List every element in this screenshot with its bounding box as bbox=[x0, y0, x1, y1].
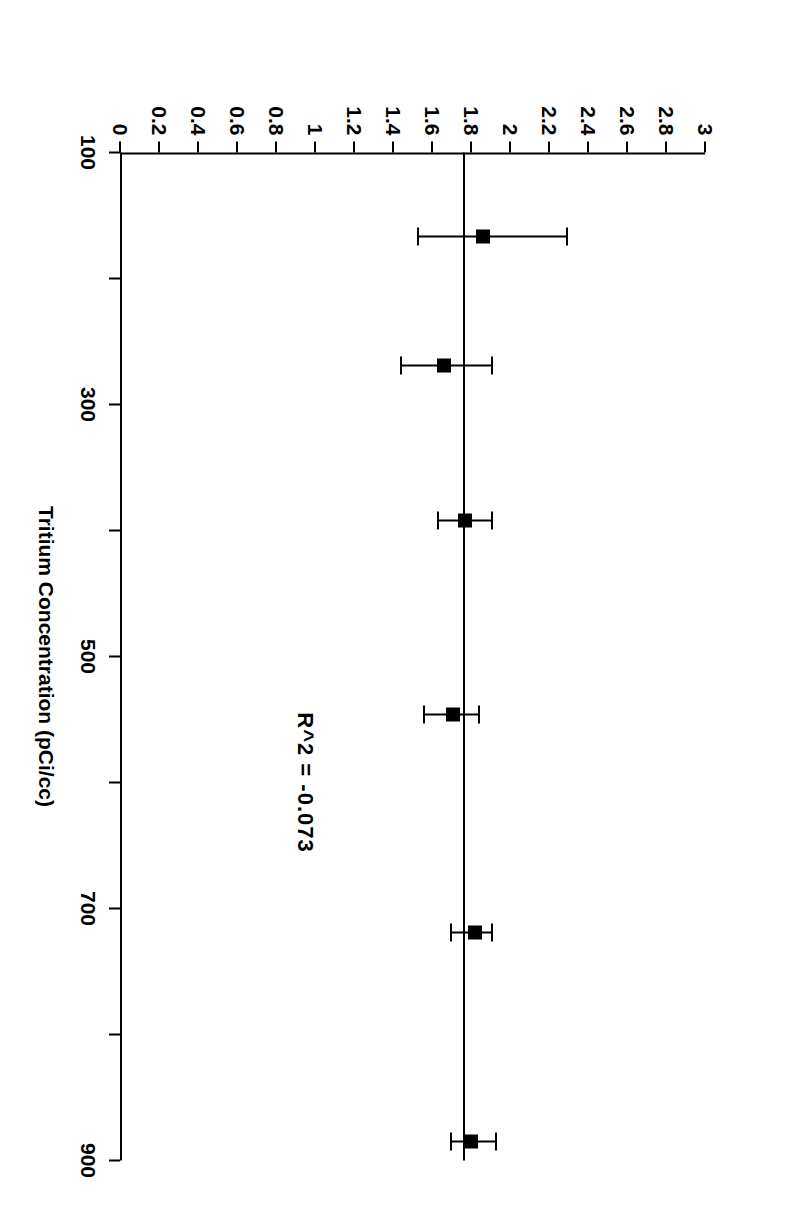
x-tick-900 bbox=[109, 1159, 120, 1161]
y-tick-3 bbox=[704, 141, 706, 152]
y-tick-label-2.4: 2.4 bbox=[576, 47, 600, 135]
y-tick-label-0.8: 0.8 bbox=[264, 47, 288, 135]
y-tick-label-2: 2 bbox=[498, 47, 522, 135]
error-bar-cap bbox=[491, 923, 493, 941]
figure-root: 100300500700900 00.20.40.60.811.21.41.61… bbox=[0, 0, 810, 1209]
y-tick-2.2 bbox=[548, 141, 550, 152]
data-point-marker bbox=[464, 1134, 478, 1148]
y-tick-label-1.4: 1.4 bbox=[381, 47, 405, 135]
data-point-marker bbox=[446, 707, 460, 721]
x-tick-400 bbox=[109, 529, 120, 531]
y-tick-label-0.6: 0.6 bbox=[225, 47, 249, 135]
x-tick-200 bbox=[109, 277, 120, 279]
x-tick-label-300: 300 bbox=[76, 386, 100, 421]
data-point-marker bbox=[437, 358, 451, 372]
x-tick-700 bbox=[109, 907, 120, 909]
error-bar-cap bbox=[423, 705, 425, 723]
error-bar-cap bbox=[566, 227, 568, 245]
y-tick-0 bbox=[119, 141, 121, 152]
x-tick-label-100: 100 bbox=[76, 134, 100, 169]
error-bar-cap bbox=[417, 227, 419, 245]
error-bar-cap bbox=[451, 923, 453, 941]
y-tick-2 bbox=[509, 141, 511, 152]
y-tick-label-2.8: 2.8 bbox=[654, 47, 678, 135]
data-point-marker bbox=[476, 229, 490, 243]
x-tick-label-700: 700 bbox=[76, 890, 100, 925]
y-tick-1.6 bbox=[431, 141, 433, 152]
y-tick-1.4 bbox=[392, 141, 394, 152]
y-tick-1 bbox=[314, 141, 316, 152]
error-bar-cap bbox=[491, 511, 493, 529]
y-tick-1.8 bbox=[470, 141, 472, 152]
y-tick-label-0: 0 bbox=[108, 47, 132, 135]
x-tick-800 bbox=[109, 1033, 120, 1035]
y-tick-0.4 bbox=[197, 141, 199, 152]
error-bar-cap bbox=[437, 511, 439, 529]
y-tick-label-0.4: 0.4 bbox=[186, 47, 210, 135]
y-tick-2.4 bbox=[587, 141, 589, 152]
y-tick-2.6 bbox=[626, 141, 628, 152]
y-tick-0.6 bbox=[236, 141, 238, 152]
y-tick-label-0.2: 0.2 bbox=[147, 47, 171, 135]
error-bar-cap bbox=[491, 356, 493, 374]
r-squared-annotation: R^2 = -0.073 bbox=[292, 712, 318, 852]
chart-canvas: 100300500700900 00.20.40.60.811.21.41.61… bbox=[0, 0, 810, 1209]
y-tick-2.8 bbox=[665, 141, 667, 152]
error-bar bbox=[418, 235, 566, 237]
y-tick-0.8 bbox=[275, 141, 277, 152]
x-tick-label-500: 500 bbox=[76, 638, 100, 673]
y-tick-label-2.2: 2.2 bbox=[537, 47, 561, 135]
y-tick-label-1: 1 bbox=[303, 47, 327, 135]
y-tick-label-1.6: 1.6 bbox=[420, 47, 444, 135]
y-tick-label-2.6: 2.6 bbox=[615, 47, 639, 135]
error-bar-cap bbox=[400, 356, 402, 374]
error-bar-cap bbox=[495, 1132, 497, 1150]
x-tick-500 bbox=[109, 655, 120, 657]
y-tick-0.2 bbox=[158, 141, 160, 152]
plot-frame bbox=[120, 152, 705, 1160]
y-tick-label-1.2: 1.2 bbox=[342, 47, 366, 135]
regression-fit-line bbox=[463, 152, 465, 1160]
x-axis-title: Tritium Concentration (pCi/cc) bbox=[34, 505, 58, 806]
y-tick-label-3: 3 bbox=[693, 47, 717, 135]
x-tick-300 bbox=[109, 403, 120, 405]
data-point-marker bbox=[468, 925, 482, 939]
x-tick-label-900: 900 bbox=[76, 1142, 100, 1177]
error-bar-cap bbox=[451, 1132, 453, 1150]
y-tick-1.2 bbox=[353, 141, 355, 152]
error-bar-cap bbox=[478, 705, 480, 723]
y-tick-label-1.8: 1.8 bbox=[459, 47, 483, 135]
x-tick-600 bbox=[109, 781, 120, 783]
